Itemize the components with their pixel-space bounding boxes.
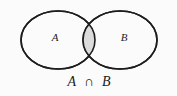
caption-right-operand: B [102, 74, 111, 89]
set-b-label: B [121, 31, 128, 43]
caption: A ∩ B [66, 72, 111, 89]
venn-diagram-canvas: A B A ∩ B [0, 0, 177, 96]
set-a-label: A [51, 31, 59, 43]
svg-text:A ∩ B: A ∩ B [66, 72, 111, 89]
caption-left-operand: A [66, 74, 76, 89]
venn-diagram-figure: A B A ∩ B [0, 0, 177, 96]
caption-intersection-operator-icon: ∩ [84, 74, 94, 89]
